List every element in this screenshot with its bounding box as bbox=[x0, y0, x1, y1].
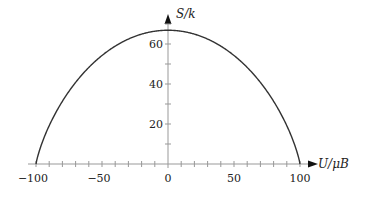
y-tick-label: 40 bbox=[149, 78, 163, 91]
y-tick-label: 60 bbox=[149, 38, 163, 51]
y-axis: 204060 bbox=[149, 14, 172, 168]
x-tick-label: 50 bbox=[227, 172, 241, 185]
x-tick-label: −50 bbox=[87, 172, 110, 185]
y-axis-label: S/k bbox=[176, 7, 196, 21]
x-axis-arrow-icon bbox=[308, 161, 318, 168]
entropy-chart: −100−50050100 204060 U/μB S/k bbox=[0, 0, 371, 198]
x-axis-label: U/μB bbox=[318, 157, 349, 171]
x-tick-label: 0 bbox=[165, 172, 172, 185]
y-axis-arrow-icon bbox=[165, 14, 172, 24]
y-tick-label: 20 bbox=[149, 118, 163, 131]
x-tick-label: 100 bbox=[290, 172, 311, 185]
x-tick-label: −100 bbox=[18, 172, 48, 185]
